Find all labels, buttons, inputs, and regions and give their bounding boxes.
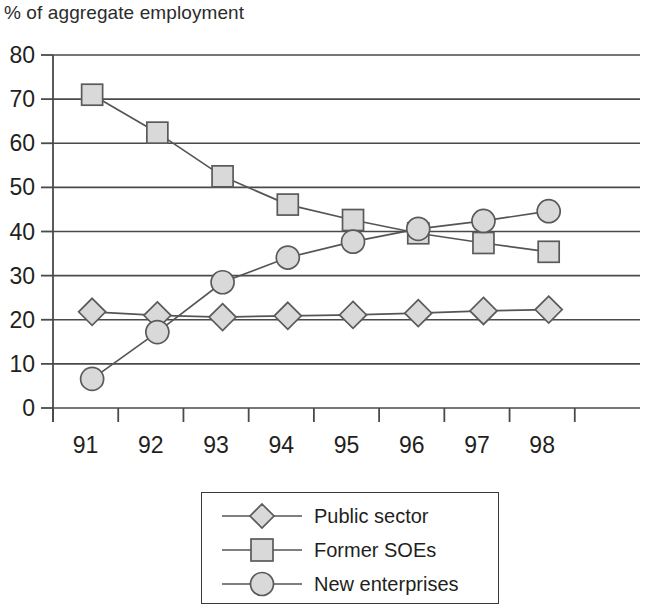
x-axis-labels-group: 9192939495969798 bbox=[73, 432, 555, 458]
data-point-marker bbox=[342, 230, 365, 253]
legend-swatch-square-icon bbox=[216, 533, 308, 567]
data-point-marker bbox=[276, 246, 299, 269]
data-point-marker bbox=[472, 209, 495, 232]
legend-item-public-sector: Public sector bbox=[202, 499, 498, 533]
y-tick-label: 80 bbox=[9, 42, 35, 68]
data-point-marker bbox=[79, 298, 106, 325]
legend-label-public-sector: Public sector bbox=[314, 505, 429, 528]
chart-legend: Public sector Former SOEs New enterprise… bbox=[201, 492, 499, 604]
legend-item-former-soes: Former SOEs bbox=[202, 533, 498, 567]
plot-area: 01020304050607080 9192939495969798 bbox=[0, 0, 661, 480]
data-point-marker bbox=[146, 321, 169, 344]
y-tick-label: 50 bbox=[9, 174, 35, 200]
data-point-marker bbox=[212, 166, 233, 187]
data-point-marker bbox=[211, 271, 234, 294]
data-point-marker bbox=[274, 302, 301, 329]
data-point-marker bbox=[81, 367, 104, 390]
y-tick-label: 60 bbox=[9, 130, 35, 156]
data-point-marker bbox=[340, 301, 367, 328]
data-point-marker bbox=[147, 122, 168, 143]
x-tick-label: 94 bbox=[268, 432, 294, 458]
legend-label-new-enterprises: New enterprises bbox=[314, 573, 459, 596]
x-tick-label: 96 bbox=[399, 432, 425, 458]
data-point-marker bbox=[537, 200, 560, 223]
y-tick-label: 40 bbox=[9, 219, 35, 245]
legend-swatch-circle-icon bbox=[216, 567, 308, 601]
x-tick-label: 98 bbox=[529, 432, 555, 458]
data-series-group bbox=[79, 84, 563, 390]
y-tick-label: 70 bbox=[9, 86, 35, 112]
data-point-marker bbox=[82, 84, 103, 105]
y-tick-label: 10 bbox=[9, 351, 35, 377]
x-tick-label: 97 bbox=[464, 432, 490, 458]
data-point-marker bbox=[209, 304, 236, 331]
x-tick-label: 95 bbox=[334, 432, 360, 458]
legend-item-new-enterprises: New enterprises bbox=[202, 567, 498, 601]
data-point-marker bbox=[407, 217, 430, 240]
data-point-marker bbox=[405, 300, 432, 327]
y-tick-label: 20 bbox=[9, 307, 35, 333]
data-point-marker bbox=[343, 210, 364, 231]
x-tick-label: 93 bbox=[203, 432, 229, 458]
x-tick-label: 91 bbox=[73, 432, 99, 458]
legend-label-former-soes: Former SOEs bbox=[314, 539, 436, 562]
data-point-marker bbox=[538, 241, 559, 262]
y-tick-label: 0 bbox=[22, 395, 35, 421]
y-tick-label: 30 bbox=[9, 263, 35, 289]
x-tick-label: 92 bbox=[138, 432, 164, 458]
y-axis-labels-group: 01020304050607080 bbox=[9, 42, 35, 421]
data-point-marker bbox=[277, 194, 298, 215]
data-point-marker bbox=[473, 232, 494, 253]
legend-swatch-diamond-icon bbox=[216, 499, 308, 533]
